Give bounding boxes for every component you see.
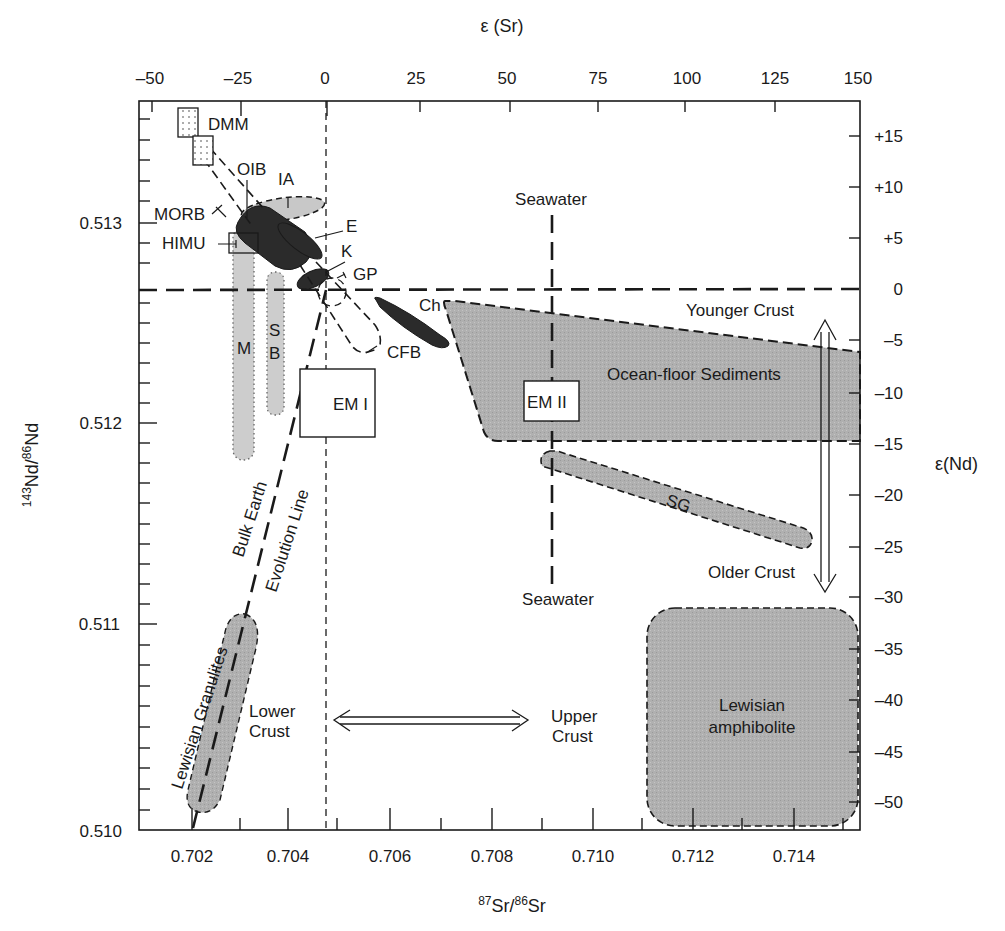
label-em1: EM I: [333, 395, 368, 414]
svg-text:75: 75: [589, 69, 608, 88]
label-e: E: [346, 217, 357, 236]
svg-text:25: 25: [407, 69, 426, 88]
leader-cfb: [366, 346, 377, 353]
label-cfb: CFB: [387, 343, 421, 362]
label-ocean-sediments: Ocean-floor Sediments: [607, 365, 781, 384]
label-upper-crust: Crust: [552, 727, 593, 746]
right-axis-title: ε(Nd): [935, 454, 978, 474]
lewisian-amphibolite-field: [647, 608, 858, 826]
top-axis-title: ε (Sr): [480, 16, 523, 36]
left-axis-title: 143Nd/86Nd: [20, 423, 42, 507]
bottom-tick-labels: 0.702 0.704 0.706 0.708 0.710 0.712 0.71…: [171, 847, 816, 866]
label-himu: HIMU: [162, 234, 205, 253]
svg-text:125: 125: [761, 69, 789, 88]
label-amphibolite: amphibolite: [709, 718, 796, 737]
svg-text:0.710: 0.710: [572, 847, 615, 866]
svg-text:+10: +10: [874, 178, 903, 197]
svg-text:0.512: 0.512: [79, 414, 122, 433]
leader-e: [315, 231, 343, 238]
bottom-axis-title: 87Sr/86Sr: [478, 894, 546, 916]
svg-text:100: 100: [673, 69, 701, 88]
leader-k: [326, 262, 345, 272]
label-lower: Lower: [249, 702, 296, 721]
label-gp: GP: [353, 265, 378, 284]
label-k: K: [341, 242, 353, 261]
left-tick-labels: 0.513 0.512 0.511 0.510: [79, 214, 122, 841]
upper-crust-double-arrow: [334, 710, 528, 731]
label-evolution-line: Evolution Line: [262, 487, 313, 594]
label-seawater-top: Seawater: [515, 190, 587, 209]
label-lewisian: Lewisian: [719, 696, 785, 715]
svg-text:–10: –10: [875, 384, 903, 403]
top-ticks: [152, 101, 775, 116]
svg-text:–50: –50: [875, 793, 903, 812]
svg-text:0.712: 0.712: [672, 847, 715, 866]
svg-text:0.510: 0.510: [79, 822, 122, 841]
svg-text:0: 0: [894, 280, 903, 299]
svg-text:0.706: 0.706: [369, 847, 412, 866]
leader-morb: [212, 205, 226, 217]
svg-text:0.714: 0.714: [773, 847, 816, 866]
label-em2: EM II: [527, 393, 567, 412]
svg-text:–20: –20: [875, 486, 903, 505]
svg-text:–50: –50: [136, 69, 164, 88]
label-morb: MORB: [154, 205, 205, 224]
label-older-crust: Older Crust: [708, 563, 795, 582]
svg-text:–30: –30: [875, 588, 903, 607]
label-ch: Ch: [419, 296, 441, 315]
svg-text:–40: –40: [875, 691, 903, 710]
bulk-earth-nd-line: [139, 289, 860, 290]
label-bulk-earth: Bulk Earth: [229, 479, 271, 559]
svg-text:–45: –45: [875, 743, 903, 762]
svg-text:–15: –15: [875, 435, 903, 454]
svg-text:–5: –5: [884, 331, 903, 350]
label-m: M: [237, 339, 251, 358]
svg-text:0: 0: [320, 69, 329, 88]
top-tick-labels: –50 –25 0 25 50 75 100 125 150: [136, 69, 872, 88]
svg-text:0.702: 0.702: [171, 847, 214, 866]
sr-nd-isotope-chart: 0.702 0.704 0.706 0.708 0.710 0.712 0.71…: [0, 0, 1005, 931]
svg-text:–25: –25: [224, 69, 252, 88]
label-seawater-bottom: Seawater: [522, 590, 594, 609]
label-ia: IA: [278, 170, 295, 189]
leader-gp: [337, 272, 346, 278]
dmm-box-1: [178, 108, 198, 137]
svg-text:0.708: 0.708: [471, 847, 514, 866]
label-s: S: [269, 321, 280, 340]
svg-text:0.511: 0.511: [79, 615, 120, 634]
label-lower-crust: Crust: [249, 722, 290, 741]
svg-text:0.704: 0.704: [267, 847, 310, 866]
label-upper: Upper: [551, 707, 598, 726]
label-b: B: [269, 344, 280, 363]
svg-text:–35: –35: [875, 640, 903, 659]
svg-text:–25: –25: [875, 538, 903, 557]
label-dmm: DMM: [208, 115, 249, 134]
svg-text:+15: +15: [874, 127, 903, 146]
svg-text:0.513: 0.513: [79, 214, 122, 233]
dmm-box-2: [193, 136, 213, 165]
svg-text:+5: +5: [884, 229, 903, 248]
svg-text:150: 150: [844, 69, 872, 88]
label-oib: OIB: [237, 160, 266, 179]
label-younger-crust: Younger Crust: [686, 301, 794, 320]
right-tick-labels: +15 +10 +5 0 –5 –10 –15 –20 –25 –30 –35 …: [874, 127, 903, 812]
svg-text:50: 50: [498, 69, 517, 88]
